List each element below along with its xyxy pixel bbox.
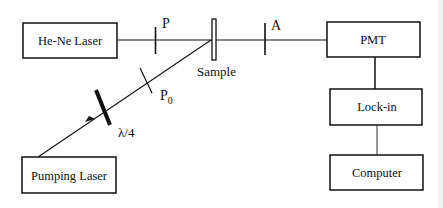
analyzer-a-label: A (271, 18, 282, 33)
computer-box: Computer (330, 155, 423, 190)
he-ne-laser-box: He-Ne Laser (23, 23, 117, 58)
pump-beam-arrow-icon (85, 116, 95, 122)
pumping-laser-box: Pumping Laser (22, 157, 116, 193)
sample-plate (212, 19, 216, 60)
setup-diagram: He-Ne Laser P Sample A PMT Lock-in Compu… (0, 0, 443, 208)
lock-in-box: Lock-in (330, 89, 422, 125)
pump-polarizer-label: P0 (160, 88, 173, 106)
sample-label: Sample (197, 64, 236, 79)
he-ne-laser-label: He-Ne Laser (38, 34, 103, 48)
pmt-label: PMT (360, 33, 386, 47)
quarter-waveplate-mark (96, 90, 110, 125)
lock-in-label: Lock-in (357, 100, 397, 114)
pmt-box: PMT (327, 22, 420, 57)
page-edge (438, 0, 443, 208)
polarizer-p-label: P (162, 16, 170, 31)
pumping-laser-label: Pumping Laser (31, 169, 108, 183)
quarter-waveplate-label: λ/4 (118, 125, 135, 140)
computer-label: Computer (352, 166, 403, 180)
